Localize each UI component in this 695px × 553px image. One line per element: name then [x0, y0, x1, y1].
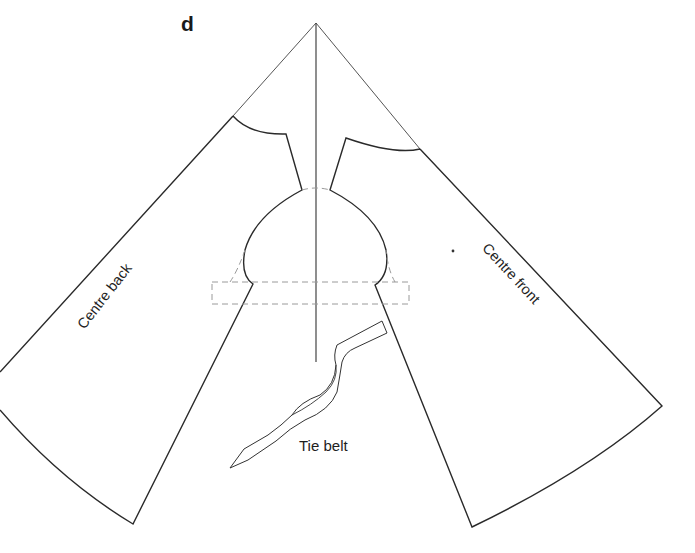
tie-belt-label: Tie belt — [299, 437, 348, 454]
apex-guides — [233, 23, 420, 149]
pattern-diagram: d Centre back Centre front Tie belt — [0, 0, 695, 553]
waist-dashed-guide — [212, 188, 409, 304]
figure-label: d — [181, 12, 194, 36]
pattern-drawing — [0, 0, 695, 553]
pattern-mark — [452, 250, 455, 253]
back-piece-outline — [0, 116, 302, 524]
